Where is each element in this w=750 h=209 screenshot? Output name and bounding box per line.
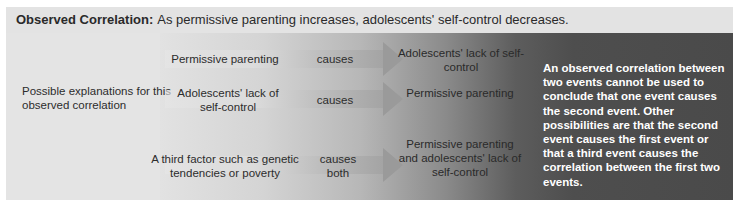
effect-text: Permissive parenting and adolescents' la…: [396, 137, 524, 179]
possible-explanations-label: Possible explanations for this observed …: [22, 84, 172, 112]
header-label: Observed Correlation:: [16, 12, 153, 27]
verb-text: causes: [310, 52, 360, 66]
cause-text: Permissive parenting: [165, 52, 285, 66]
cause-text: Adolescents' lack of self-control: [172, 86, 284, 114]
verb-text: causes both: [318, 152, 358, 180]
cause-text: A third factor such as genetic tendencie…: [150, 152, 300, 180]
header-statement: As permissive parenting increases, adole…: [157, 12, 568, 27]
diagram-header: Observed Correlation:As permissive paren…: [6, 7, 733, 33]
effect-text: Adolescents' lack of self-control: [396, 46, 526, 74]
effect-text: Permissive parenting: [396, 86, 524, 100]
verb-text: causes: [310, 93, 360, 107]
explanation-note: An observed correlation between two even…: [543, 61, 728, 189]
